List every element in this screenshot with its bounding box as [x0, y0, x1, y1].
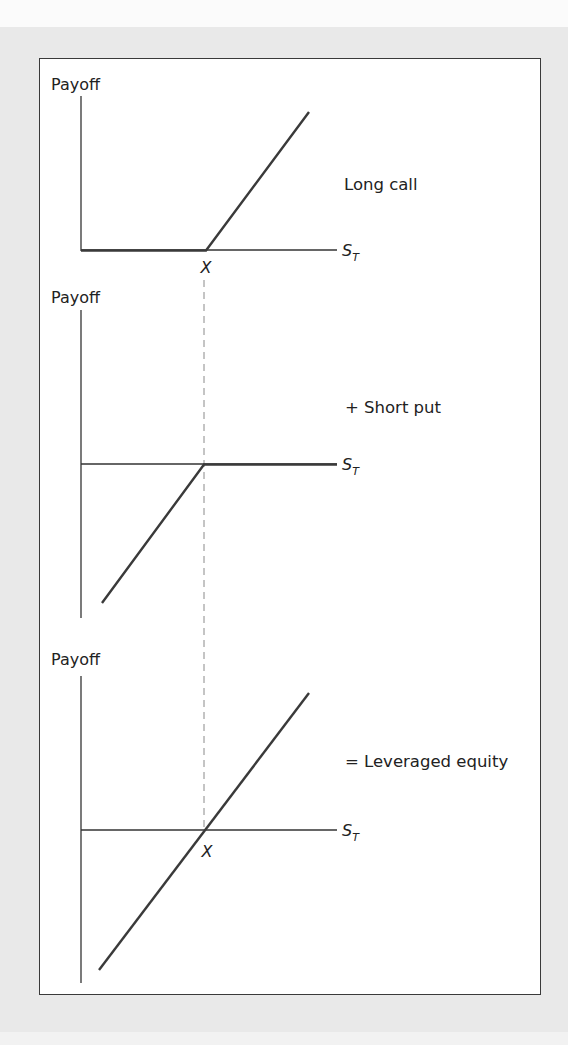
x-axis-label: ST: [342, 821, 360, 844]
x-axis-label: ST: [342, 241, 360, 264]
panel-caption: + Short put: [345, 398, 442, 417]
panel-caption: = Leveraged equity: [345, 752, 508, 771]
x-axis-label: ST: [342, 455, 360, 478]
y-axis-label: Payoff: [51, 288, 101, 307]
strike-label: X: [201, 842, 214, 861]
leveraged-equity-payoff-line: [99, 693, 309, 970]
panel-long-call: Payoff ST X Long call: [51, 75, 418, 277]
panel-leveraged-equity: Payoff ST X = Leveraged equity: [51, 650, 508, 983]
y-axis-label: Payoff: [51, 650, 101, 669]
y-axis-label: Payoff: [51, 75, 101, 94]
long-call-payoff-line: [81, 112, 309, 251]
short-put-payoff-line: [102, 465, 337, 604]
strike-label: X: [200, 258, 213, 277]
payoff-diagram: Payoff ST X Long call Payoff ST + Short …: [0, 0, 568, 1045]
panel-short-put: Payoff ST + Short put: [51, 288, 442, 618]
panel-caption: Long call: [344, 175, 418, 194]
